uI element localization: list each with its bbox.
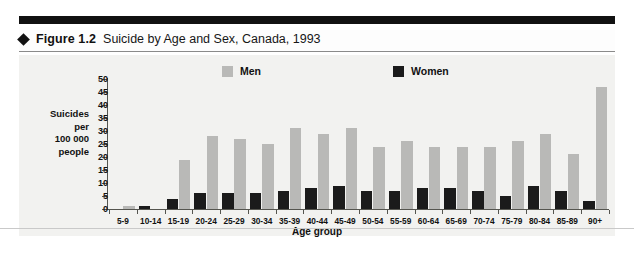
y-tick-label: 5: [90, 192, 108, 201]
y-tick-label-wrap: 30: [77, 127, 108, 136]
x-tick-mark: [220, 210, 221, 214]
bar-women: [583, 201, 595, 209]
y-tick-label-wrap: 35: [77, 114, 108, 123]
y-tick-label: 25: [90, 140, 108, 149]
bar-men: [234, 139, 246, 209]
y-tick-label-wrap: 40: [77, 101, 108, 110]
bar-group: [303, 79, 331, 209]
y-tick-label-wrap: 15: [77, 166, 108, 175]
bar-women: [500, 196, 512, 209]
x-tick-mark: [470, 210, 471, 214]
x-tick-mark: [109, 210, 110, 214]
bar-group: [415, 79, 443, 209]
bar-men: [401, 141, 413, 209]
bar-group: [359, 79, 387, 209]
legend-label-women: Women: [411, 65, 449, 77]
bar-group: [581, 79, 609, 209]
x-tick-mark: [137, 210, 138, 214]
bar-women: [222, 193, 234, 209]
y-tick-label-wrap: 20: [77, 153, 108, 162]
y-tick-label: 50: [90, 75, 108, 84]
x-tick-mark: [303, 210, 304, 214]
plot-area: [109, 79, 609, 209]
bar-group: [248, 79, 276, 209]
bar-men: [568, 154, 580, 209]
y-tick-label-wrap: 10: [77, 179, 108, 188]
bar-group: [442, 79, 470, 209]
bar-men: [484, 147, 496, 209]
title-divider: [19, 51, 615, 52]
y-tick-label: 20: [90, 153, 108, 162]
x-axis-line: [107, 209, 609, 210]
bar-group: [276, 79, 304, 209]
legend-item-men: Men: [222, 65, 261, 77]
bar-group: [109, 79, 137, 209]
x-tick-mark: [415, 210, 416, 214]
bar-group: [387, 79, 415, 209]
bottom-divider: [0, 228, 634, 229]
bar-women: [361, 191, 373, 209]
bar-men: [318, 134, 330, 209]
x-tick-mark: [387, 210, 388, 214]
y-tick-label-wrap: 50: [77, 75, 108, 84]
bar-women: [305, 188, 317, 209]
bar-group: [470, 79, 498, 209]
x-tick-mark: [526, 210, 527, 214]
bar-men: [290, 128, 302, 209]
x-tick-mark: [192, 210, 193, 214]
chart-panel: Men Women Suicides per 100 000 people 05…: [19, 55, 615, 236]
chart-legend: Men Women: [19, 65, 615, 79]
bar-women: [472, 191, 484, 209]
bar-group: [331, 79, 359, 209]
bar-women: [167, 199, 179, 209]
x-tick-mark: [553, 210, 554, 214]
y-tick-label: 15: [90, 166, 108, 175]
bar-men: [596, 87, 608, 209]
bar-men: [123, 206, 135, 209]
x-tick-mark: [331, 210, 332, 214]
x-tick-mark: [248, 210, 249, 214]
y-tick-label: 10: [90, 179, 108, 188]
bar-women: [139, 206, 151, 209]
y-tick-label: 30: [90, 127, 108, 136]
y-tick-label-wrap: 5: [77, 192, 108, 201]
bar-women: [333, 186, 345, 209]
x-tick-label: 90+: [577, 216, 613, 226]
x-tick-mark: [165, 210, 166, 214]
y-tick-label: 40: [90, 101, 108, 110]
bar-women: [528, 186, 540, 209]
legend-label-men: Men: [240, 65, 261, 77]
bar-group: [498, 79, 526, 209]
x-tick-mark: [359, 210, 360, 214]
bar-women: [250, 193, 262, 209]
bar-men: [373, 147, 385, 209]
bar-women: [194, 193, 206, 209]
bar-group: [220, 79, 248, 209]
bar-men: [540, 134, 552, 209]
bar-women: [417, 188, 429, 209]
bar-women: [389, 191, 401, 209]
figure-page: Figure 1.2 Suicide by Age and Sex, Canad…: [0, 0, 634, 256]
figure-title: Suicide by Age and Sex, Canada, 1993: [103, 32, 321, 46]
y-tick-label-wrap: 25: [77, 140, 108, 149]
bar-group: [165, 79, 193, 209]
bar-women: [278, 191, 290, 209]
y-tick-label: 35: [90, 114, 108, 123]
y-tick-label: 0: [90, 205, 108, 214]
legend-swatch-women-icon: [393, 66, 404, 77]
bar-men: [429, 147, 441, 209]
bar-women: [555, 191, 567, 209]
y-tick-label-wrap: 0: [77, 205, 108, 214]
figure-label: Figure 1.2: [36, 32, 96, 46]
bar-group: [192, 79, 220, 209]
bar-men: [262, 144, 274, 209]
bar-men: [207, 136, 219, 209]
bar-group: [526, 79, 554, 209]
legend-swatch-men-icon: [222, 66, 233, 77]
legend-item-women: Women: [393, 65, 449, 77]
bar-group: [137, 79, 165, 209]
x-tick-mark: [442, 210, 443, 214]
bar-women: [444, 188, 456, 209]
bar-men: [179, 160, 191, 209]
y-tick-label: 45: [90, 88, 108, 97]
